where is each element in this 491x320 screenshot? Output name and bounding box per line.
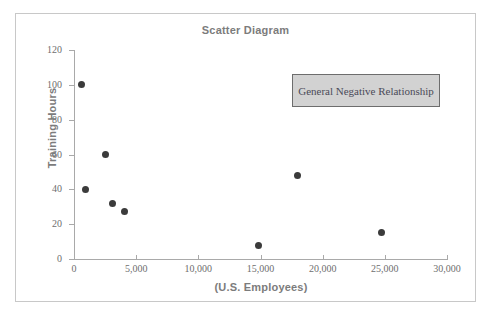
data-point: [109, 200, 116, 207]
page-title: Scatter Diagram: [0, 24, 491, 36]
y-tick-label: 120: [32, 45, 62, 55]
x-tick-label: 0: [44, 263, 104, 274]
data-point: [378, 229, 385, 236]
annotation-callout: General Negative Relationship: [292, 74, 440, 107]
x-tick-label: 20,000: [293, 263, 353, 274]
scatter-chart-page: Scatter Diagram 020406080100120 05,00010…: [0, 0, 491, 320]
y-tick-label: 20: [32, 219, 62, 229]
x-tick-label: 15,000: [231, 263, 291, 274]
data-point: [82, 186, 89, 193]
y-axis-label: Training Hours: [46, 68, 58, 188]
x-tick-label: 10,000: [168, 263, 228, 274]
x-tick-label: 25,000: [355, 263, 415, 274]
x-tick-label: 5,000: [106, 263, 166, 274]
annotation-label: General Negative Relationship: [298, 85, 434, 97]
data-point: [255, 242, 262, 249]
data-point: [102, 151, 109, 158]
x-tick-mark: [447, 255, 448, 260]
x-axis-label: (U.S. Employees): [74, 281, 448, 293]
x-tick-label: 30,000: [417, 263, 477, 274]
